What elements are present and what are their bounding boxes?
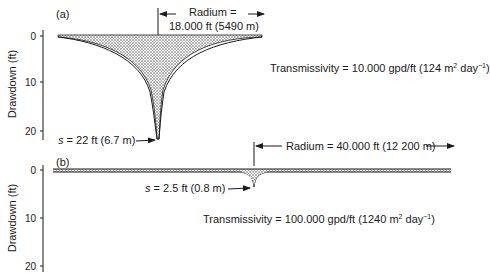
panel-a-tick-0: 0 bbox=[16, 31, 36, 42]
panel-b-trans-mid: day bbox=[402, 213, 423, 225]
panel-a-transmissivity-text: Transmissivity = 10.000 gpd/ft (124 m bbox=[270, 62, 453, 74]
panel-a-s-arrow bbox=[136, 140, 155, 141]
panel-b-s-value: = 2.5 ft (0.8 m) bbox=[151, 182, 226, 194]
panel-a-transmissivity: Transmissivity = 10.000 gpd/ft (124 m2 d… bbox=[270, 62, 490, 75]
panel-b-tick-0: 0 bbox=[16, 165, 36, 176]
panel-b-label: (b) bbox=[56, 156, 69, 169]
panel-b-tick-20: 20 bbox=[16, 261, 36, 272]
panel-a-trans-mid: day bbox=[457, 62, 478, 74]
panel-a-trans-suffix: ) bbox=[486, 62, 490, 74]
panel-b-cone bbox=[53, 169, 451, 187]
panel-a-tick-10: 10 bbox=[16, 77, 36, 88]
panel-a-tick-20: 20 bbox=[16, 126, 36, 137]
panel-b-s-arrow bbox=[228, 188, 250, 189]
panel-a-cone bbox=[58, 35, 262, 139]
panel-b-tick-10: 10 bbox=[16, 213, 36, 224]
panel-a-trans-sup2: −1 bbox=[478, 62, 486, 69]
panel-a-radius-line2: 18.000 ft (5490 m) bbox=[169, 20, 259, 33]
panel-a-s-value: = 22 ft (6.7 m) bbox=[64, 134, 136, 146]
panel-a-y-axis bbox=[40, 30, 43, 140]
panel-b-y-axis-label: Drawdown (ft) bbox=[6, 173, 18, 263]
panel-b-transmissivity-text: Transmissivity = 100.000 gpd/ft (1240 m bbox=[203, 213, 399, 225]
panel-a-s-label: s = 22 ft (6.7 m) bbox=[58, 134, 135, 147]
panel-b-y-axis bbox=[40, 165, 43, 272]
panel-a-radius-line1: Radium = bbox=[189, 6, 236, 19]
panel-b-radius-text: Radium = 40.000 ft (12 200 m) bbox=[286, 140, 436, 153]
panel-b-trans-suffix: ) bbox=[431, 213, 435, 225]
panel-a-y-axis-label: Drawdown (ft) bbox=[6, 39, 18, 129]
panel-b-s-label: s = 2.5 ft (0.8 m) bbox=[145, 182, 225, 195]
panel-a-label: (a) bbox=[56, 8, 69, 21]
panel-b-transmissivity: Transmissivity = 100.000 gpd/ft (1240 m2… bbox=[203, 213, 435, 226]
